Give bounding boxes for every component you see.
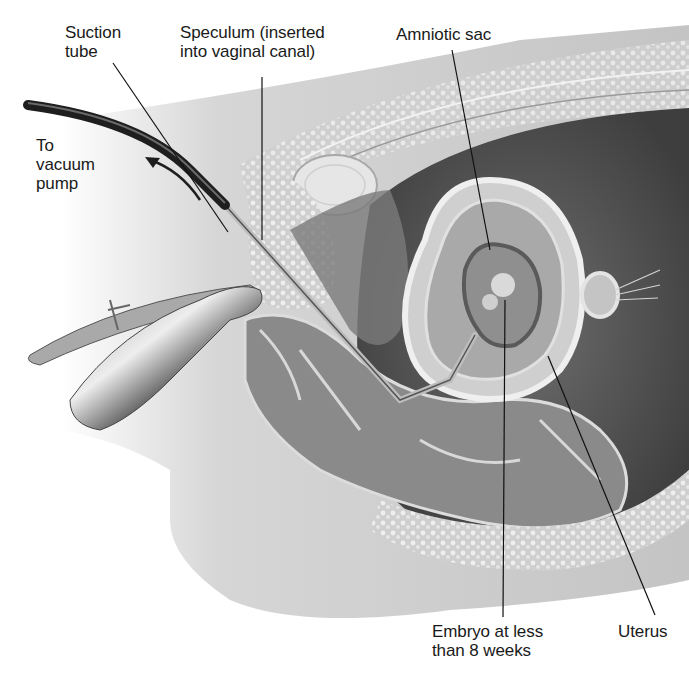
label-embryo: Embryo at less than 8 weeks [432,622,543,660]
diagram-stage: Suction tube Speculum (inserted into vag… [0,0,689,673]
label-suction-tube: Suction tube [65,23,121,61]
anatomy-illustration [0,0,689,673]
ovary [582,273,618,317]
label-uterus: Uterus [618,622,667,641]
label-amniotic-sac: Amniotic sac [396,25,491,44]
label-to-vacuum-pump: To vacuum pump [36,136,95,193]
label-speculum: Speculum (inserted into vaginal canal) [180,23,325,61]
